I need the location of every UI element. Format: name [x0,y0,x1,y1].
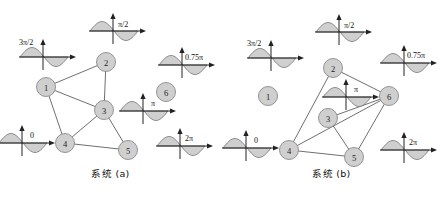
x-axis-arrowhead [431,147,437,152]
graph-node[interactable]: 4 [56,134,75,153]
graph-node[interactable]: 3 [95,101,114,120]
y-axis-arrowhead [19,125,24,131]
x-axis-arrowhead [373,94,379,99]
graph-node[interactable]: 6 [380,87,399,106]
graph-node[interactable]: 5 [119,141,138,160]
wave-phase-label: 2π [185,134,193,143]
graph-node[interactable]: 2 [324,59,343,78]
diagram-system-a: 3π/2π/20.75ππ02π123456 [0,0,221,175]
node-label: 2 [104,58,108,68]
wave-phase-label: 0.75π [407,51,425,60]
wave-phase-label: 3π/2 [19,38,33,47]
node-label: 5 [352,153,356,163]
sine-wave-plot: π/2 [315,14,372,45]
sine-wave-plot: 3π/2 [247,39,304,71]
wave-phase-label: π/2 [344,21,354,30]
sine-wave-plot: 2π [156,128,213,159]
node-label: 3 [326,114,330,124]
node-label: 1 [266,92,270,102]
sine-wave-plot: 0.75π [380,45,437,76]
y-axis-arrowhead [40,39,45,45]
caption-system-a: 系统 (a) [0,166,221,180]
x-axis-arrowhead [366,29,372,34]
y-axis-arrowhead [401,132,406,138]
x-axis-arrowhead [207,143,213,148]
edge-layer [289,68,389,157]
graph-node[interactable]: 4 [280,141,299,160]
graph-node[interactable]: 6 [157,83,176,102]
node-label: 6 [164,88,168,98]
figure-root: 3π/2π/20.75ππ02π123456 系统 (a) 3π/2π/20.7… [0,0,442,197]
node-label: 3 [102,106,106,116]
sine-wave-plot: 0 [0,125,55,156]
y-axis-arrowhead [343,79,348,85]
wave-phase-label: π [354,85,358,94]
x-axis-arrowhead [298,55,304,60]
graph-node[interactable]: 1 [37,78,56,97]
sine-wave-plot: 0.75π [158,47,215,78]
sine-wave-plot: π [322,79,379,110]
y-axis-arrowhead [140,93,145,99]
graph-node[interactable]: 2 [97,53,116,72]
x-axis-arrowhead [140,28,146,33]
node-label: 2 [331,64,335,74]
node-label: 1 [44,83,48,93]
x-axis-arrowhead [70,54,76,59]
x-axis-arrowhead [431,60,437,65]
x-axis-arrowhead [49,140,55,145]
y-axis-arrowhead [177,128,182,134]
graph-node[interactable]: 3 [319,109,338,128]
graph-node[interactable]: 1 [259,87,278,106]
sine-wave-plot: 2π [380,132,437,163]
wave-phase-label: 2π [409,138,417,147]
y-axis-arrowhead [336,14,341,20]
node-label: 6 [387,92,391,102]
y-axis-arrowhead [243,130,248,136]
x-axis-arrowhead [170,108,176,113]
y-axis-arrowhead [110,13,115,19]
y-axis-arrowhead [179,47,184,53]
sine-wave-plot: π/2 [89,13,146,44]
sine-wave-plot: 3π/2 [19,38,76,70]
diagram-system-b: 3π/2π/20.75ππ02π123456 [221,0,442,175]
y-axis-arrowhead [401,45,406,51]
wave-phase-label: 0 [254,136,258,145]
x-axis-arrowhead [209,62,215,67]
node-label: 5 [126,146,130,156]
wave-phase-label: 3π/2 [247,39,261,48]
wave-phase-label: 0.75π [185,53,203,62]
wave-phase-label: 0 [30,131,34,140]
wave-phase-label: π [151,99,155,108]
x-axis-arrowhead [273,145,279,150]
panel-system-b: 3π/2π/20.75ππ02π123456 系统 (b) [221,0,442,197]
wave-phase-label: π/2 [118,20,128,29]
caption-system-b: 系统 (b) [221,166,442,180]
node-layer: 123456 [259,59,399,167]
graph-node[interactable]: 5 [345,148,364,167]
sine-wave-plot: 0 [222,130,279,161]
panel-system-a: 3π/2π/20.75ππ02π123456 系统 (a) [0,0,221,197]
graph-edge [289,96,389,150]
y-axis-arrowhead [268,40,273,46]
